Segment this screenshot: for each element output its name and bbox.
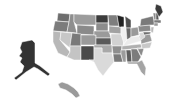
state-nd bbox=[96, 15, 108, 23]
state-nj bbox=[151, 27, 154, 33]
us-choropleth-map bbox=[0, 0, 176, 107]
state-hi bbox=[58, 82, 80, 98]
state-nm bbox=[81, 46, 94, 60]
state-oh bbox=[131, 27, 139, 37]
state-wa bbox=[57, 13, 70, 22]
state-or bbox=[53, 21, 69, 32]
state-mi bbox=[125, 16, 131, 28]
state-ne bbox=[94, 31, 111, 38]
state-fl bbox=[127, 60, 146, 76]
state-ar bbox=[112, 46, 122, 54]
state-wy bbox=[77, 25, 94, 35]
state-ny bbox=[140, 16, 155, 26]
state-ak bbox=[14, 40, 50, 80]
state-ma bbox=[154, 20, 161, 23]
state-ct bbox=[154, 23, 158, 26]
state-ut bbox=[70, 33, 81, 46]
state-co bbox=[81, 35, 96, 45]
state-ks bbox=[96, 38, 111, 45]
state-sd bbox=[96, 23, 108, 31]
state-mt bbox=[74, 14, 96, 25]
